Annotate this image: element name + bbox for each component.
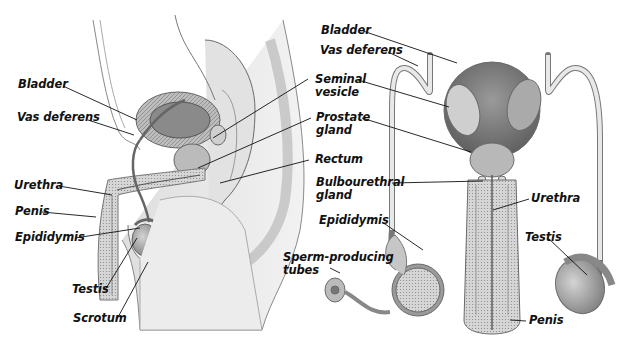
label-vas-deferens-front: Vas deferens <box>320 44 403 57</box>
label-sperm-producing-tubes: Sperm-producing tubes <box>283 251 394 277</box>
label-penis-front: Penis <box>529 314 563 327</box>
label-urethra-side: Urethra <box>14 179 63 192</box>
label-seminal-vesicle: Seminal vesicle <box>315 73 366 99</box>
label-rectum: Rectum <box>315 153 363 166</box>
label-bladder-side: Bladder <box>18 78 68 91</box>
label-testis-front: Testis <box>525 231 562 244</box>
label-epididymis-side: Epididymis <box>15 231 85 244</box>
label-epididymis-front: Epididymis <box>319 214 389 227</box>
label-bulbourethral-gland: Bulbourethral gland <box>316 176 404 202</box>
label-vas-deferens-side: Vas deferens <box>17 111 100 124</box>
label-testis-side: Testis <box>72 283 109 296</box>
label-penis-side: Penis <box>15 205 49 218</box>
label-scrotum-side: Scrotum <box>73 312 127 325</box>
label-bladder-front: Bladder <box>321 24 371 37</box>
label-urethra-front: Urethra <box>531 192 580 205</box>
label-prostate-gland: Prostate gland <box>316 111 370 137</box>
side-view-drawing <box>93 15 304 330</box>
reproductive-diagram: Bladder Vas deferens Urethra Penis Epidi… <box>0 0 639 346</box>
